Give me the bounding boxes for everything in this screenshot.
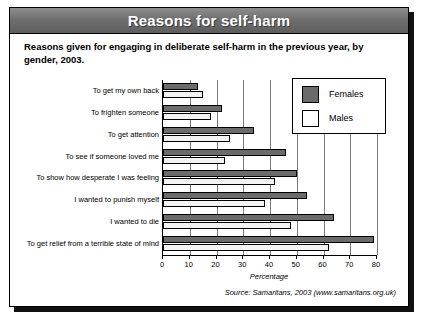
chart-card: Reasons for self-harm Reasons given for … bbox=[9, 7, 409, 307]
title-banner: Reasons for self-harm bbox=[10, 8, 408, 34]
category-label: To get my own back bbox=[93, 87, 159, 95]
x-tick bbox=[349, 255, 350, 259]
bar-females bbox=[163, 105, 222, 112]
chart-row: To see if someone loved me bbox=[163, 146, 376, 168]
category-label: To get attention bbox=[108, 131, 159, 139]
bar-males bbox=[163, 157, 225, 164]
legend-label-males: Males bbox=[329, 113, 353, 123]
x-tick-label: 60 bbox=[318, 260, 326, 269]
bar-females bbox=[163, 83, 198, 90]
bar-females bbox=[163, 170, 297, 177]
category-label: I wanted to die bbox=[110, 218, 159, 226]
x-tick-label: 30 bbox=[238, 260, 246, 269]
x-tick-label: 20 bbox=[211, 260, 219, 269]
category-label: To frighten someone bbox=[91, 109, 159, 117]
x-tick bbox=[162, 255, 163, 259]
x-tick-label: 40 bbox=[265, 260, 273, 269]
bar-males bbox=[163, 113, 211, 120]
bar-males bbox=[163, 244, 329, 251]
bar-males bbox=[163, 200, 265, 207]
source-note: Source: Samaritans, 2003 (www.samaritans… bbox=[225, 288, 396, 297]
chart-row: I wanted to punish myself bbox=[163, 189, 376, 211]
x-tick bbox=[216, 255, 217, 259]
chart-legend: Females Males bbox=[292, 78, 386, 134]
bar-females bbox=[163, 236, 374, 243]
x-tick bbox=[296, 255, 297, 259]
chart-row: To get relief from a terrible state of m… bbox=[163, 233, 376, 255]
x-tick bbox=[242, 255, 243, 259]
bar-females bbox=[163, 149, 286, 156]
category-label: To see if someone loved me bbox=[66, 153, 159, 161]
bar-males bbox=[163, 222, 291, 229]
bar-females bbox=[163, 214, 334, 221]
category-label: I wanted to punish myself bbox=[74, 196, 159, 204]
x-tick bbox=[376, 255, 377, 259]
x-tick-label: 70 bbox=[345, 260, 353, 269]
x-tick bbox=[269, 255, 270, 259]
chart-page: Reasons for self-harm Reasons given for … bbox=[0, 0, 424, 325]
x-tick bbox=[189, 255, 190, 259]
x-tick-label: 80 bbox=[372, 260, 380, 269]
legend-swatch-females-icon bbox=[302, 86, 319, 103]
bar-males bbox=[163, 178, 275, 185]
bar-males bbox=[163, 91, 203, 98]
bar-females bbox=[163, 192, 307, 199]
bar-males bbox=[163, 135, 230, 142]
x-tick-label: 50 bbox=[292, 260, 300, 269]
page-title: Reasons for self-harm bbox=[10, 8, 408, 33]
chart-subtitle: Reasons given for engaging in deliberate… bbox=[24, 41, 396, 66]
category-label: To get relief from a terrible state of m… bbox=[27, 240, 159, 248]
x-axis-label: Percentage bbox=[162, 272, 376, 281]
x-tick-label: 10 bbox=[185, 260, 193, 269]
legend-swatch-males-icon bbox=[302, 110, 319, 127]
x-tick-label: 0 bbox=[160, 260, 164, 269]
bar-chart: To get my own backTo frighten someoneTo … bbox=[10, 68, 409, 283]
legend-label-females: Females bbox=[329, 89, 364, 99]
bar-females bbox=[163, 127, 254, 134]
x-tick bbox=[323, 255, 324, 259]
category-label: To show how desperate I was feeling bbox=[36, 174, 159, 182]
chart-row: To show how desperate I was feeling bbox=[163, 168, 376, 190]
chart-row: I wanted to die bbox=[163, 211, 376, 233]
